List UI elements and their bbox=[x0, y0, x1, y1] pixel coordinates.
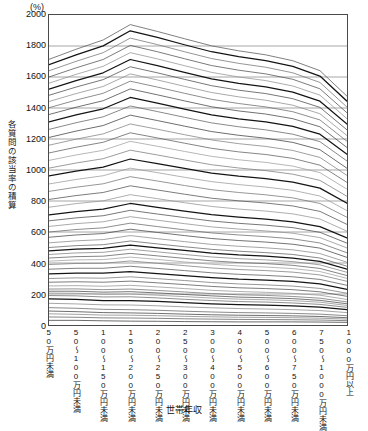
y-tick-label: 1000 bbox=[26, 166, 46, 175]
plot-area bbox=[48, 14, 348, 326]
y-tick-label: 1800 bbox=[26, 41, 46, 50]
x-tick-label: 50万円未満 bbox=[44, 328, 53, 378]
x-tick-label: 50〜100万円未満 bbox=[71, 328, 80, 413]
y-tick-label: 200 bbox=[31, 290, 46, 299]
y-tick-label: 2000 bbox=[26, 10, 46, 19]
y-axis-title: 各質問の該当率の積算 bbox=[2, 120, 15, 210]
plot-lines-svg bbox=[49, 15, 347, 325]
x-tick-label: 750〜1000万円未満 bbox=[316, 328, 325, 431]
y-tick-label: 1400 bbox=[26, 103, 46, 112]
y-tick-label: 600 bbox=[31, 228, 46, 237]
x-tick-label: 1000万円以上 bbox=[344, 328, 353, 396]
x-axis-title: 世帯年収 bbox=[0, 405, 368, 415]
x-axis-tick-labels: 50万円未満50〜100万円未満100〜150万円未満150〜200万円未満20… bbox=[48, 328, 348, 398]
y-tick-label: 1600 bbox=[26, 72, 46, 81]
y-axis-tick-labels: 0200400600800100012001400160018002000 bbox=[16, 14, 46, 326]
y-tick-label: 800 bbox=[31, 197, 46, 206]
y-tick-label: 1200 bbox=[26, 134, 46, 143]
y-tick-label: 400 bbox=[31, 259, 46, 268]
